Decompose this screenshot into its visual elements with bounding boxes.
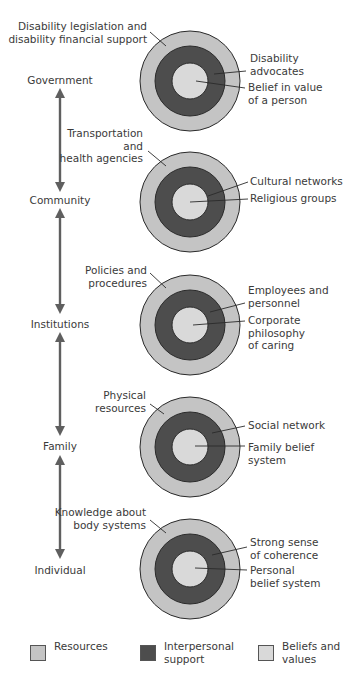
circle-group-individual: Knowledge aboutbody systemsStrong senseo… <box>55 506 321 619</box>
legend: Resources Interpersonal support Beliefs … <box>0 638 350 678</box>
level-label-institutions: Institutions <box>31 318 90 330</box>
swatch-resources <box>30 645 46 661</box>
legend-item-interpersonal-support: Interpersonal support <box>140 638 234 665</box>
beliefs-core <box>172 63 208 99</box>
legend-item-resources: Resources <box>30 638 108 661</box>
resources-label: Physicalresources <box>95 389 146 414</box>
level-label-family: Family <box>43 440 77 452</box>
swatch-beliefs-and-values <box>258 645 274 661</box>
beliefs-core <box>172 307 208 343</box>
legend-label-beliefs-and-values: Beliefs and values <box>282 638 340 665</box>
interpersonal-label: Strong senseof coherence <box>250 536 318 561</box>
beliefs-label: Belief in valueof a person <box>248 81 323 106</box>
level-label-community: Community <box>30 194 91 206</box>
interpersonal-label: Disabilityadvocates <box>250 52 304 77</box>
beliefs-label: Corporatephilosophyof caring <box>248 314 305 351</box>
circle-group-community: Transportationandhealth agenciesCultural… <box>60 127 343 252</box>
interpersonal-label: Social network <box>248 419 326 431</box>
resources-label: Knowledge aboutbody systems <box>55 506 146 531</box>
legend-label-resources: Resources <box>54 638 108 653</box>
interpersonal-label: Employees andpersonnel <box>248 284 329 309</box>
swatch-interpersonal-support <box>140 645 156 661</box>
beliefs-core <box>172 429 208 465</box>
circle-group-institutions: Policies andproceduresEmployees andperso… <box>85 264 329 375</box>
level-label-government: Government <box>27 74 92 86</box>
beliefs-label: Family beliefsystem <box>248 441 315 466</box>
circle-group-family: PhysicalresourcesSocial networkFamily be… <box>95 389 326 497</box>
nested-circles-diagram: GovernmentCommunityInstitutionsFamilyInd… <box>0 0 350 687</box>
resources-label-leader-line <box>148 151 166 166</box>
beliefs-core <box>172 551 208 587</box>
beliefs-label: Religious groups <box>250 192 337 204</box>
resources-label: Transportationandhealth agencies <box>60 127 143 164</box>
resources-label-leader-line <box>150 273 166 288</box>
beliefs-label: Personalbelief system <box>250 564 320 589</box>
resources-label: Disability legislation anddisability fin… <box>8 20 147 45</box>
interpersonal-label: Cultural networks <box>250 175 343 187</box>
level-label-individual: Individual <box>34 564 85 576</box>
legend-item-beliefs-and-values: Beliefs and values <box>258 638 340 665</box>
resources-label: Policies andprocedures <box>85 264 147 289</box>
legend-label-interpersonal-support: Interpersonal support <box>164 638 234 665</box>
